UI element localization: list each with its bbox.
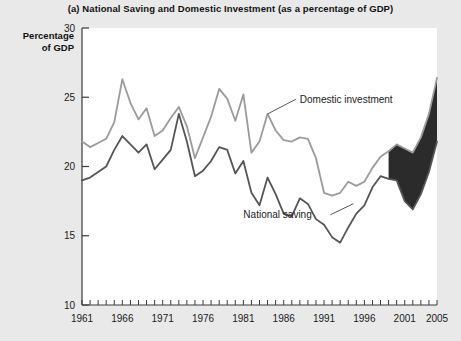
x-tick-label: 2001	[394, 313, 417, 324]
x-tick-label: 1991	[313, 313, 336, 324]
annotation-national-saving: National saving	[243, 209, 311, 220]
y-tick-label: 10	[64, 300, 76, 311]
x-tick-label: 1966	[111, 313, 134, 324]
x-tick-label: 1961	[71, 313, 94, 324]
y-tick-label: 30	[64, 23, 76, 34]
x-tick-label: 1996	[353, 313, 376, 324]
y-tick-label: 20	[64, 161, 76, 172]
y-tick-label: 15	[64, 230, 76, 241]
x-tick-label: 2005	[426, 313, 449, 324]
chart-plot: 1015202530 19611966197119761981198619911…	[0, 0, 461, 341]
x-tick-label: 1976	[192, 313, 215, 324]
plot-background	[82, 28, 437, 305]
x-tick-label: 1971	[152, 313, 175, 324]
chart-figure: (a) National Saving and Domestic Investm…	[0, 0, 461, 341]
x-tick-label: 1986	[273, 313, 296, 324]
y-tick-label: 25	[64, 92, 76, 103]
x-tick-label: 1981	[232, 313, 255, 324]
annotation-domestic-investment: Domestic investment	[300, 94, 393, 105]
